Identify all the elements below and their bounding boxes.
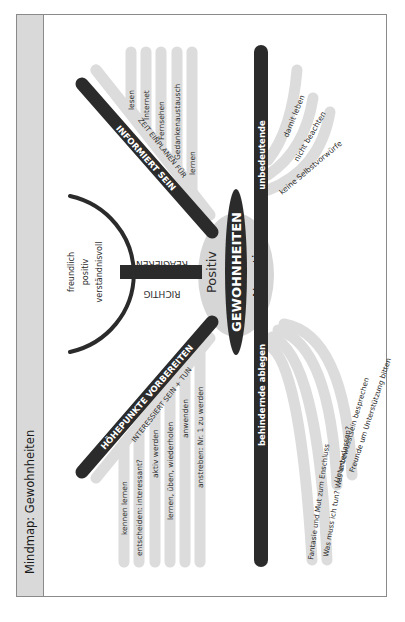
hoehepunkte-item: aktiv werden — [151, 429, 160, 478]
hoehepunkte-item: anstreben: Nr. 1 zu werden — [196, 386, 205, 488]
mindmap: GEWOHNHEITEN Positiv Negativ INFORMIERT … — [0, 0, 405, 622]
reagieren-label: REAGIEREN — [136, 259, 188, 269]
reagieren-item: verständnisvoll — [95, 242, 104, 303]
informiert-item: Fernsehen — [157, 101, 166, 140]
informiert-item: Gedankenaustausch — [173, 83, 182, 160]
informiert-item: lernen — [188, 151, 197, 175]
behindernde-label: behindernde ablegen — [257, 344, 267, 446]
richtig-label: RICHTIG — [143, 289, 180, 299]
reagieren-item: freundlich — [67, 252, 76, 292]
hoehepunkte-item: lernen, üben, wiederholen — [166, 422, 175, 520]
reagieren-item: positiv — [81, 259, 90, 286]
unbedeutende-item: keine Selbstvorwürfe — [278, 139, 345, 197]
hoehepunkte-item: entscheiden: interessant? — [135, 459, 144, 556]
hoehepunkte-item: anwenden — [181, 399, 190, 438]
reagieren-items: freundlich positiv verständnisvoll — [67, 242, 104, 303]
positive-label: Positiv — [204, 251, 219, 293]
unbedeutende-label: unbedeutende — [257, 120, 267, 190]
hoehepunkte-item: kennen lernen — [120, 481, 129, 535]
negative-label: Negativ — [250, 247, 265, 298]
informiert-item: lesen — [127, 90, 136, 110]
center-label: GEWOHNHEITEN — [229, 212, 244, 332]
informiert-item: Internet — [142, 90, 151, 120]
